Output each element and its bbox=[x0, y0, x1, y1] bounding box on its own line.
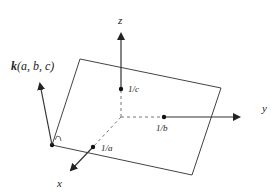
intercept-point-b bbox=[162, 115, 166, 119]
y-axis-label: y bbox=[261, 102, 267, 114]
intercept-label-b: 1/b bbox=[156, 123, 168, 133]
x-axis bbox=[71, 147, 93, 170]
hidden-axis-segments bbox=[93, 87, 164, 147]
intercept-label-c: 1/c bbox=[128, 84, 139, 94]
plane-normal-diagram: z y x 1/c 1/b 1/a k(a, b, c) bbox=[0, 0, 280, 196]
intercept-label-a: 1/a bbox=[101, 143, 113, 153]
intercept-point-a bbox=[91, 145, 95, 149]
z-axis-label: z bbox=[117, 14, 123, 26]
x-axis-label: x bbox=[56, 177, 62, 189]
intercept-point-c bbox=[119, 87, 123, 91]
normal-vector-label: k(a, b, c) bbox=[11, 59, 54, 73]
right-angle-mark bbox=[55, 136, 61, 141]
normal-vector bbox=[40, 84, 52, 145]
